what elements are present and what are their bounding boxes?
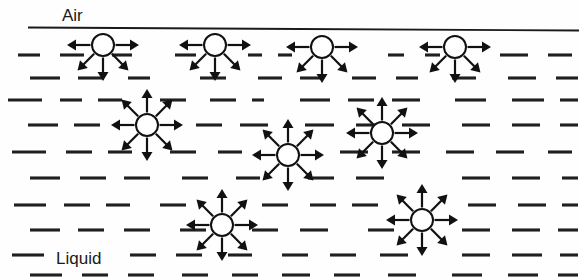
force-arrow-head — [419, 42, 428, 53]
force-arrow-head — [111, 120, 120, 131]
surface-molecule-4 — [419, 36, 491, 83]
force-arrow-head — [242, 40, 251, 51]
force-arrow-shaft — [156, 134, 167, 145]
interior-molecule-4 — [386, 184, 458, 256]
force-arrow-head — [417, 184, 428, 193]
interior-molecule-circle — [371, 122, 393, 144]
force-arrow-head — [179, 40, 188, 51]
force-arrow-shaft — [231, 234, 242, 245]
force-arrow-head — [346, 128, 355, 139]
force-arrow-head — [283, 182, 294, 191]
force-arrow-head — [217, 189, 228, 198]
force-arrow-shaft — [268, 164, 279, 175]
force-arrow-shaft — [268, 135, 279, 146]
surface-molecule-circle — [204, 34, 226, 56]
air-label: Air — [62, 6, 83, 25]
interior-molecule-3 — [252, 119, 324, 191]
force-arrow-shaft — [195, 54, 206, 65]
force-arrow-shaft — [402, 229, 413, 240]
force-arrow-shaft — [402, 200, 413, 211]
interior-molecule-circle — [277, 144, 299, 166]
surface-tension-diagram: Air Liquid — [0, 0, 579, 280]
force-arrow-head — [386, 215, 395, 226]
surface-molecule-circle — [444, 36, 466, 58]
surface-molecule-circle — [311, 36, 333, 58]
interior-molecule-circle — [136, 114, 158, 136]
force-arrow-shaft — [464, 56, 475, 67]
force-arrow-head — [142, 152, 153, 161]
force-arrow-shaft — [297, 135, 308, 146]
force-arrow-shaft — [83, 54, 94, 65]
interior-molecule-2 — [346, 97, 418, 169]
force-arrow-shaft — [302, 56, 313, 67]
interior-molecule-1 — [111, 89, 183, 161]
force-arrow-head — [130, 40, 139, 51]
force-arrow-shaft — [331, 56, 342, 67]
air-liquid-interface-line — [28, 28, 579, 31]
force-arrow-shaft — [431, 229, 442, 240]
surface-molecule-2 — [179, 34, 251, 81]
force-arrow-head — [283, 119, 294, 128]
force-arrow-shaft — [297, 164, 308, 175]
force-arrow-shaft — [156, 105, 167, 116]
interior-molecule-5 — [186, 189, 258, 261]
force-arrow-shaft — [202, 234, 213, 245]
interior-molecule-circle — [211, 214, 233, 236]
force-arrow-head — [377, 160, 388, 169]
force-arrow-head — [142, 89, 153, 98]
force-arrow-shaft — [202, 205, 213, 216]
surface-molecule-3 — [286, 36, 358, 83]
force-arrow-head — [449, 215, 458, 226]
force-arrow-head — [482, 42, 491, 53]
force-arrow-shaft — [224, 54, 235, 65]
force-arrow-head — [409, 128, 418, 139]
force-arrow-head — [349, 42, 358, 53]
force-arrow-shaft — [127, 105, 138, 116]
force-arrow-shaft — [231, 205, 242, 216]
force-arrow-head — [217, 252, 228, 261]
force-arrow-head — [315, 150, 324, 161]
surface-molecule-1 — [67, 34, 139, 81]
force-arrow-shaft — [362, 113, 373, 124]
molecule-layer — [67, 34, 491, 261]
force-arrow-head — [377, 97, 388, 106]
force-arrow-head — [252, 150, 261, 161]
force-arrow-shaft — [431, 200, 442, 211]
liquid-label: Liquid — [56, 249, 101, 268]
force-arrow-shaft — [391, 113, 402, 124]
diagram-canvas: Air Liquid — [0, 0, 579, 280]
force-arrow-head — [174, 120, 183, 131]
force-arrow-head — [67, 40, 76, 51]
surface-molecule-circle — [92, 34, 114, 56]
interior-molecule-circle — [411, 209, 433, 231]
force-arrow-head — [417, 247, 428, 256]
force-arrow-shaft — [127, 134, 138, 145]
force-arrow-head — [286, 42, 295, 53]
force-arrow-shaft — [435, 56, 446, 67]
